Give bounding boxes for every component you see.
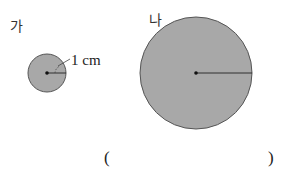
small-circle-figure <box>28 54 70 92</box>
large-circle-figure <box>140 17 252 129</box>
radius-label: 1 cm <box>71 52 101 69</box>
small-circle-center <box>45 71 49 75</box>
answer-paren-open: ( <box>104 148 110 168</box>
large-circle-center <box>194 71 198 75</box>
answer-paren-close: ) <box>268 148 274 168</box>
figures-canvas <box>0 0 290 182</box>
